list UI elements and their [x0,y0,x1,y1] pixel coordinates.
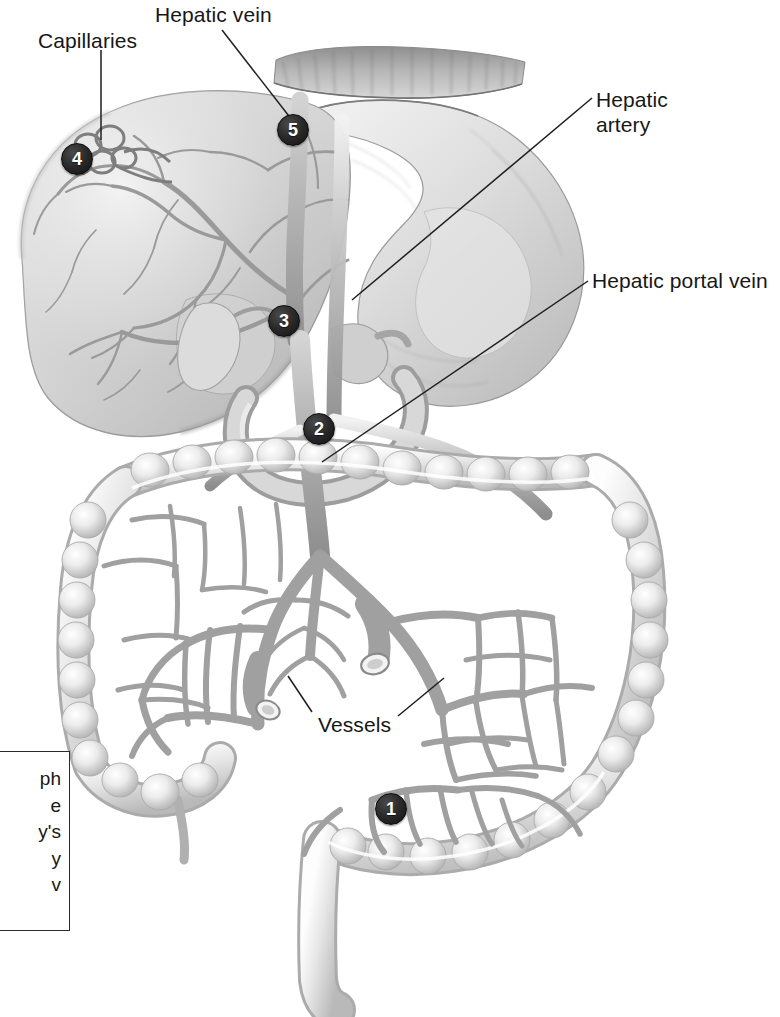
marker-2[interactable]: 2 [303,413,335,445]
caption-line-3: y's [0,819,61,846]
caption-line-4: y [0,846,61,873]
label-vessels: Vessels [318,712,391,737]
diaphragm-organ [274,47,525,99]
caption-line-2: e [0,793,61,820]
marker-1[interactable]: 1 [375,793,407,825]
marker-4[interactable]: 4 [61,143,93,175]
label-capillaries: Capillaries [38,28,137,53]
label-hepatic-vein: Hepatic vein [155,2,272,27]
label-hepatic-portal-vein: Hepatic portal vein [592,268,768,293]
caption-line-5: v [0,872,61,899]
hepatic-portal-system-illustration [0,0,780,1017]
caption-line-1: ph [0,766,61,793]
caption-box: ph e y's y v [0,751,70,931]
leader-vessels-left [288,676,312,712]
anatomical-figure: Capillaries Hepatic vein Hepatic artery … [0,0,780,1017]
label-hepatic-artery-line2: artery [596,112,716,137]
label-hepatic-artery: Hepatic artery [596,87,716,137]
marker-5[interactable]: 5 [277,114,309,146]
label-hepatic-artery-line1: Hepatic [596,87,716,112]
marker-3[interactable]: 3 [268,305,300,337]
